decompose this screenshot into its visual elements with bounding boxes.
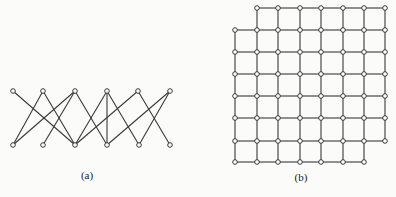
grid-node: [276, 160, 281, 165]
grid-node: [383, 6, 388, 11]
graph-node-top: [11, 89, 16, 94]
graph-node-top: [168, 89, 173, 94]
grid-node: [362, 116, 367, 121]
grid-node: [233, 139, 238, 144]
grid-node: [341, 139, 346, 144]
grid-node: [383, 116, 388, 121]
grid-node: [255, 139, 260, 144]
grid-node: [233, 160, 238, 165]
grid-node: [319, 160, 324, 165]
grid-node: [319, 116, 324, 121]
grid-node: [319, 50, 324, 55]
graph-node-bottom: [137, 143, 142, 148]
graph-node-top: [73, 89, 78, 94]
graph-node-top: [41, 89, 46, 94]
grid-node: [298, 28, 303, 33]
grid-node: [298, 160, 303, 165]
grid-node: [276, 6, 281, 11]
grid-node: [276, 28, 281, 33]
grid-node: [298, 50, 303, 55]
grid-node: [341, 28, 346, 33]
graph-node-top: [105, 89, 110, 94]
grid-node: [298, 94, 303, 99]
grid-node: [276, 50, 281, 55]
grid-node: [298, 72, 303, 77]
graph-node-bottom: [105, 143, 110, 148]
grid-node: [383, 94, 388, 99]
grid-node: [298, 6, 303, 11]
graph-node-bottom: [11, 143, 16, 148]
grid-node: [341, 94, 346, 99]
grid-node: [298, 116, 303, 121]
grid-node: [362, 72, 367, 77]
grid-node: [255, 116, 260, 121]
grid-node: [276, 116, 281, 121]
grid-node: [233, 28, 238, 33]
graph-node-top: [136, 89, 141, 94]
panel-b-caption: (b): [295, 171, 308, 184]
panel-a-caption: (a): [81, 169, 94, 182]
grid-node: [362, 28, 367, 33]
grid-node: [383, 28, 388, 33]
grid-node: [233, 72, 238, 77]
grid-node: [383, 72, 388, 77]
grid-node: [341, 6, 346, 11]
grid-node: [276, 72, 281, 77]
grid-node: [255, 28, 260, 33]
grid-node: [362, 6, 367, 11]
grid-node: [319, 72, 324, 77]
grid-node: [319, 6, 324, 11]
grid-node: [341, 72, 346, 77]
grid-node: [341, 116, 346, 121]
grid-node: [362, 50, 367, 55]
grid-node: [319, 94, 324, 99]
grid-node: [362, 94, 367, 99]
grid-node: [298, 139, 303, 144]
grid-node: [341, 160, 346, 165]
grid-node: [255, 6, 260, 11]
grid-node: [233, 50, 238, 55]
grid-node: [255, 50, 260, 55]
grid-node: [319, 139, 324, 144]
grid-node: [383, 50, 388, 55]
grid-node: [319, 28, 324, 33]
graph-node-bottom: [73, 143, 78, 148]
grid-node: [362, 139, 367, 144]
grid-node: [233, 116, 238, 121]
grid-node: [362, 160, 367, 165]
grid-node: [233, 94, 238, 99]
grid-node: [255, 72, 260, 77]
figure-canvas: (a) (b): [0, 0, 396, 197]
graph-node-bottom: [168, 143, 173, 148]
grid-node: [276, 139, 281, 144]
grid-node: [276, 94, 281, 99]
grid-node: [341, 50, 346, 55]
grid-node: [255, 94, 260, 99]
grid-node: [383, 139, 388, 144]
grid-node: [255, 160, 260, 165]
graph-node-bottom: [41, 143, 46, 148]
